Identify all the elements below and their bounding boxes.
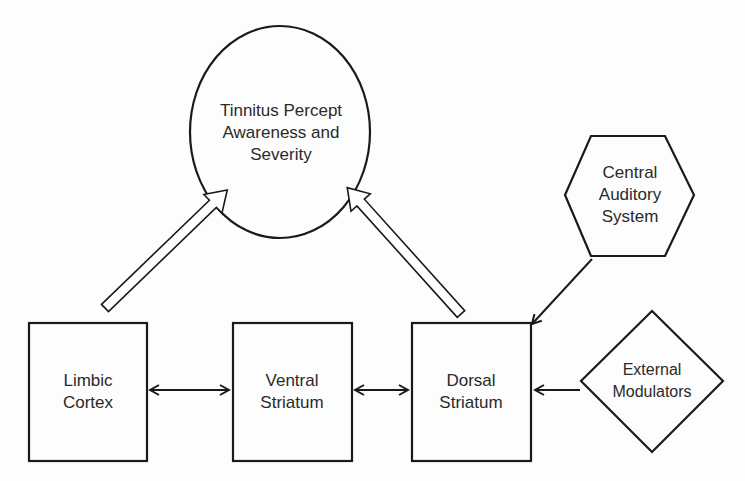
block-arrow-dorsal-to-percept: [338, 179, 471, 323]
arrow-central-auditory-to-dorsal: [532, 259, 592, 324]
ventral-striatum-label: Ventral Striatum: [260, 370, 323, 414]
dorsal-striatum-label: Dorsal Striatum: [439, 370, 502, 414]
block-arrow-limbic-to-percept: [96, 181, 236, 318]
limbic-cortex-label: Limbic Cortex: [63, 370, 113, 414]
central-auditory-label: Central Auditory System: [599, 162, 661, 228]
external-modulators-label: External Modulators: [612, 359, 691, 403]
percept-label: Tinnitus Percept Awareness and Severity: [220, 100, 342, 166]
